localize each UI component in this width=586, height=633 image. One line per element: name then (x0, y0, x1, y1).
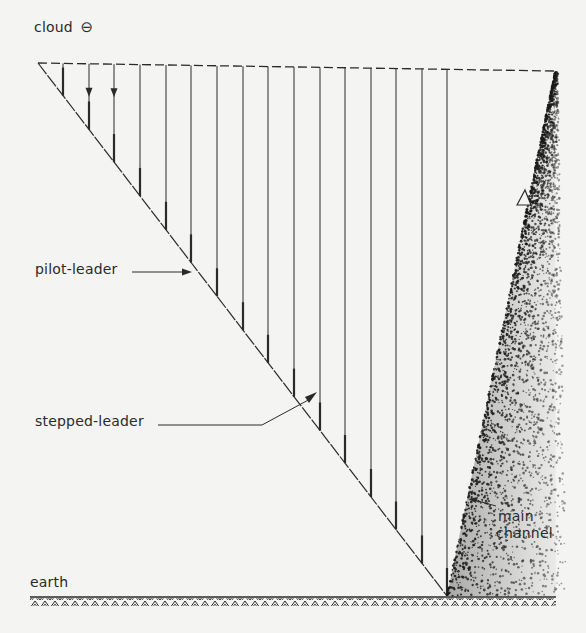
earth-ground-hatch (30, 597, 556, 606)
pilot-leader-label: pilot-leader (35, 262, 118, 276)
cloud-text: cloud (34, 19, 73, 35)
cloud-base-dashed-line (38, 63, 555, 71)
negative-charge-icon: ⊖ (81, 18, 94, 36)
leader-step-lines (63, 63, 447, 596)
earth-label: earth (30, 575, 68, 589)
stepped-leader-label: stepped-leader (35, 414, 144, 428)
label-pointer-lines (132, 269, 496, 507)
cloud-label: cloud ⊖ (34, 20, 93, 35)
main-channel-label-line2: channel (496, 526, 553, 540)
main-channel-label-line1: main (498, 509, 534, 523)
lightning-diagram: cloud ⊖ pilot-leader stepped-leader main… (0, 0, 586, 633)
